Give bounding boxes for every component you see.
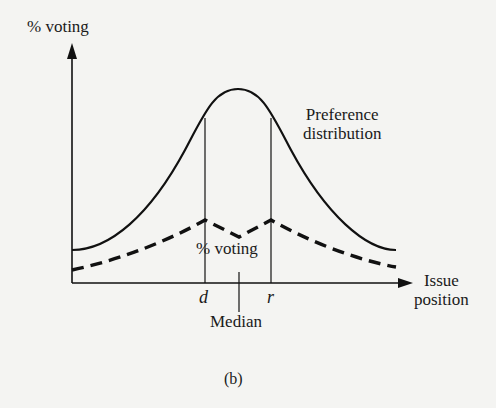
median-label: Median: [210, 313, 262, 332]
x-axis-label: Issue position: [414, 272, 469, 309]
preference-label-line1: Preference: [303, 106, 381, 125]
d-tick-label: d: [199, 288, 208, 308]
preference-label-line2: distribution: [303, 125, 381, 144]
voting-curve-label: % voting: [196, 240, 258, 259]
figure-caption: (b): [224, 370, 243, 388]
x-axis-arrow-icon: [398, 278, 413, 288]
x-axis-label-line1: Issue: [414, 272, 469, 291]
r-tick-label: r: [267, 288, 274, 308]
x-axis-label-line2: position: [414, 291, 469, 310]
preference-distribution-label: Preference distribution: [303, 106, 381, 143]
y-axis-label: % voting: [27, 18, 89, 37]
diagram-canvas: [0, 0, 496, 408]
y-axis-arrow-icon: [67, 43, 77, 59]
